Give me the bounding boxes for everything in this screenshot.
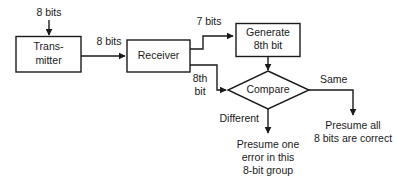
node-generate-label-line2: 8th bit	[254, 39, 283, 51]
connector-receiver-to-generate	[190, 36, 233, 49]
terminal-error-line2: error in this	[242, 151, 295, 163]
edge-label-receiver-to-compare-line2: bit	[194, 85, 205, 97]
edge-label-transmitter-to-receiver: 8 bits	[96, 35, 121, 47]
edge-label-compare-different: Different	[220, 112, 260, 124]
terminal-correct-line1: Presume all	[325, 119, 380, 131]
node-transmitter-label-line1: Trans-	[34, 40, 64, 52]
edge-label-input-8bits: 8 bits	[36, 6, 61, 18]
node-receiver-label: Receiver	[138, 49, 180, 61]
node-generate-label-line1: Generate	[246, 26, 290, 38]
terminal-correct-line2: 8 bits are correct	[314, 132, 392, 144]
terminal-error-line1: Presume one	[237, 138, 300, 150]
terminal-error-line3: 8-bit group	[243, 164, 293, 176]
edge-label-receiver-to-generate: 7 bits	[196, 15, 221, 27]
edge-label-receiver-to-compare-line1: 8th	[193, 72, 208, 84]
edge-label-compare-same: Same	[320, 73, 348, 85]
connector-compare-same	[309, 90, 353, 115]
flowchart-canvas: 8 bits Trans- mitter 8 bits Receiver 7 b…	[0, 0, 398, 183]
node-compare-label: Compare	[246, 83, 289, 95]
node-transmitter-label-line2: mitter	[35, 54, 62, 66]
flowchart-diagram: 8 bits Trans- mitter 8 bits Receiver 7 b…	[0, 0, 398, 183]
